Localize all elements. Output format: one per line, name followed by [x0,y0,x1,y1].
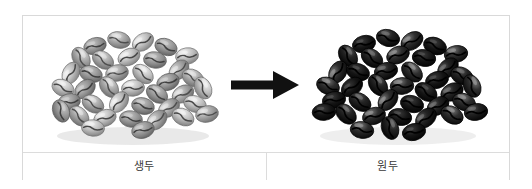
green-beans-illustration [33,16,233,152]
arrow-right-icon [231,68,299,102]
caption-cell-roasted-beans: 원두 [267,153,510,180]
caption-cell-green-beans: 생두 [23,153,267,180]
roasted-beans-image [298,16,498,152]
caption-label-roasted-beans: 원두 [377,161,398,172]
roasted-beans-illustration [298,16,498,152]
figure-image-row [23,16,509,152]
coffee-bean-comparison-figure: 생두 원두 [22,15,510,180]
figure-caption-row: 생두 원두 [23,152,509,180]
green-beans-image [33,16,233,152]
caption-label-green-beans: 생두 [134,161,155,172]
